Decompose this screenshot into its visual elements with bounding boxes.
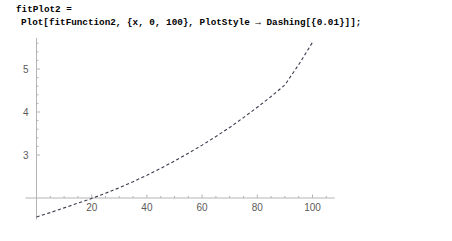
notebook-graphics-cell[interactable]: 20406080100 345: [0, 38, 452, 241]
y-tick-label: 5: [23, 64, 29, 75]
y-axis-major-ticks: [37, 69, 41, 155]
x-tick-label: 20: [86, 202, 98, 213]
x-tick-label: 80: [252, 202, 264, 213]
y-tick-label: 3: [23, 150, 29, 161]
y-axis-tick-labels: 345: [23, 64, 29, 161]
notebook-input-cell[interactable]: fitPlot2 = Plot[fitFunction2, {x, 0, 100…: [0, 0, 452, 29]
fit-function-curve: [37, 42, 313, 217]
plot-figure: 20406080100 345: [0, 38, 452, 241]
plot-axes: [25, 38, 334, 219]
x-axis-major-ticks: [92, 195, 313, 199]
y-tick-label: 4: [23, 107, 29, 118]
x-tick-label: 60: [197, 202, 209, 213]
code-line-assignment: fitPlot2 =: [16, 3, 452, 16]
x-tick-label: 100: [304, 202, 321, 213]
code-line-plot-call: Plot[fitFunction2, {x, 0, 100}, PlotStyl…: [21, 16, 452, 29]
x-tick-label: 40: [141, 202, 153, 213]
x-axis-tick-labels: 20406080100: [86, 202, 321, 213]
